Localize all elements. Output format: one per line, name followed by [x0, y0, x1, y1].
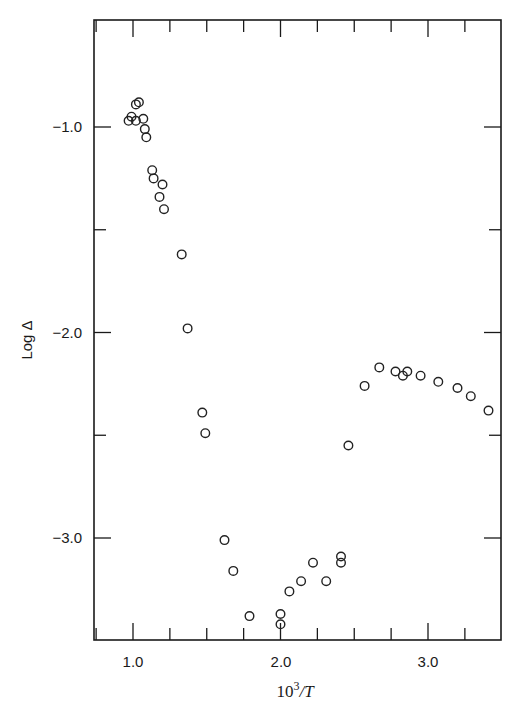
x-tick-label-1: 1.0: [123, 653, 144, 670]
data-point-circle: [285, 587, 294, 596]
data-point-circle: [416, 371, 425, 380]
data-point-circle: [276, 610, 285, 619]
data-point-circle: [375, 363, 384, 372]
data-point-circle: [337, 558, 346, 567]
data-point-circle: [245, 612, 254, 621]
y-tick-label-2: −2.0: [52, 324, 82, 341]
data-point-circle: [484, 406, 493, 415]
data-point-circle: [201, 429, 210, 438]
y-axis-title: Log Δ: [18, 320, 35, 359]
data-point-circle: [141, 125, 150, 134]
data-point-circle: [155, 193, 164, 202]
y-tick-label-3: −3.0: [52, 529, 82, 546]
x-axis-title-base: 10: [276, 682, 293, 701]
data-point-circle: [360, 382, 369, 391]
data-point-circle: [309, 558, 318, 567]
data-point-circle: [149, 174, 158, 183]
data-point-circle: [434, 378, 443, 387]
x-tick-label-3: 3.0: [418, 653, 439, 670]
plot-frame: [94, 20, 501, 640]
data-point-circle: [453, 384, 462, 393]
data-point-circle: [198, 408, 207, 417]
data-point-circle: [322, 577, 331, 586]
data-point-circle: [183, 324, 192, 333]
axis-ticks: [94, 20, 501, 640]
data-point-circle: [344, 441, 353, 450]
x-axis-title-rest: /T: [298, 682, 315, 701]
x-axis-title: 103/T: [276, 679, 315, 701]
data-point-circle: [220, 536, 229, 545]
data-point-circle: [148, 166, 157, 175]
data-point-circle: [297, 577, 306, 586]
data-point-circle: [160, 205, 169, 214]
data-point-circle: [467, 392, 476, 401]
data-point-circle: [158, 180, 167, 189]
data-point-circle: [142, 133, 151, 142]
y-tick-label-1: −1.0: [52, 118, 82, 135]
data-points: [124, 98, 493, 629]
scatter-chart: 1.0 2.0 3.0 −1.0 −2.0 −3.0 Log Δ 103/T: [0, 0, 514, 711]
data-point-circle: [229, 567, 238, 576]
data-point-circle: [177, 250, 186, 259]
x-tick-label-2: 2.0: [271, 653, 292, 670]
